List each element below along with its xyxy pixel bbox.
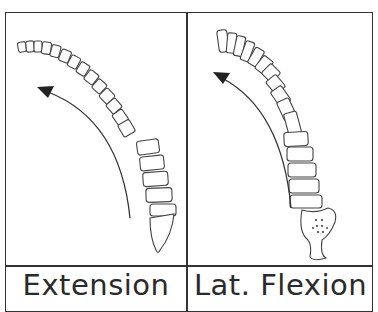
lateral-flexion-spine-icon: [217, 29, 336, 259]
extension-label: Extension: [5, 267, 187, 303]
extension-spine-icon: [17, 41, 176, 253]
lateral-flexion-label: Lat. Flexion: [188, 267, 373, 303]
